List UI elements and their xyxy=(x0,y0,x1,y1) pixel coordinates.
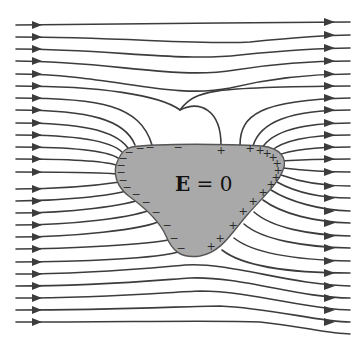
svg-text:−: − xyxy=(162,219,171,232)
svg-text:−: − xyxy=(151,206,160,219)
svg-text:+: + xyxy=(228,219,237,232)
svg-text:+: + xyxy=(266,178,275,191)
arrowheads-right xyxy=(324,18,335,326)
field-value: = 0 xyxy=(190,172,232,196)
svg-text:−: − xyxy=(131,188,140,201)
svg-text:+: + xyxy=(248,195,257,208)
svg-text:−: − xyxy=(176,242,185,255)
arrowheads-left xyxy=(32,21,42,326)
field-lines-top xyxy=(16,22,350,110)
svg-text:−: − xyxy=(141,196,150,209)
svg-text:+: + xyxy=(215,232,224,245)
svg-text:+: + xyxy=(206,240,215,253)
svg-text:+: + xyxy=(245,142,254,155)
svg-text:+: + xyxy=(238,205,247,218)
field-symbol: E xyxy=(175,172,190,196)
field-lines-bottom xyxy=(16,265,350,334)
svg-text:+: + xyxy=(258,186,267,199)
svg-text:+: + xyxy=(216,144,225,157)
svg-text:−: − xyxy=(145,141,154,154)
svg-text:−: − xyxy=(173,141,182,154)
field-inside-label: E = 0 xyxy=(175,172,232,196)
svg-text:−: − xyxy=(122,181,131,194)
field-diagram: − − − − − − − − − − − − − − − + + + + + … xyxy=(0,0,361,338)
svg-text:−: − xyxy=(135,142,144,155)
